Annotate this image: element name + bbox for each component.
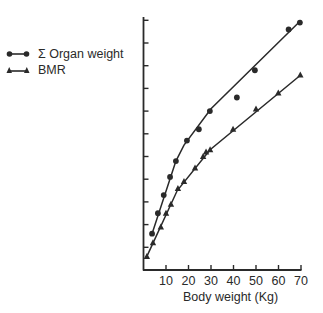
x-tick-label: 60 [272,274,286,288]
data-point-circle [149,231,155,237]
data-point-triangle [168,201,174,207]
data-point-circle [234,95,240,101]
data-point-circle [207,108,213,114]
x-tick-label: 70 [294,274,308,288]
data-point-circle [286,26,292,32]
fit-line [147,75,301,257]
data-point-circle [297,20,303,26]
x-axis-label: Body weight (Kg) [183,290,278,304]
data-point-circle [196,126,202,132]
legend-label: Σ Organ weight [38,46,124,62]
triangle-line-marker-icon [6,65,30,75]
legend-item-organ-weight: Σ Organ weight [6,46,124,62]
data-point-triangle [144,253,150,259]
legend: Σ Organ weight BMR [6,46,124,78]
data-point-circle [167,174,173,180]
data-point-circle [173,158,179,164]
data-point-triangle [297,71,303,77]
data-point-circle [184,138,190,144]
x-tick-label: 30 [204,274,218,288]
x-tick-label: 20 [182,274,196,288]
x-tick-label: 40 [227,274,241,288]
x-tick-label: 50 [249,274,263,288]
data-point-triangle [150,239,156,245]
x-tick-label: 10 [159,274,173,288]
data-point-circle [155,210,161,216]
fit-line [152,20,301,233]
legend-item-bmr: BMR [6,62,124,78]
data-point-circle [252,67,258,73]
data-point-triangle [253,105,259,111]
data-point-circle [161,192,167,198]
legend-label: BMR [38,62,66,78]
circle-line-marker-icon [6,49,30,59]
data-point-triangle [158,223,164,229]
